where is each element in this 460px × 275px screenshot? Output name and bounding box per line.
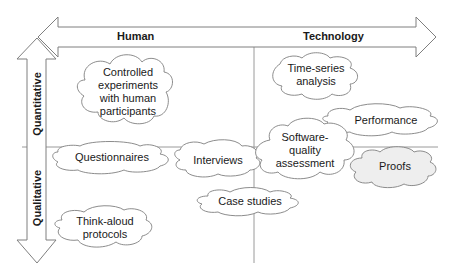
method-time-series: Time-seriesanalysis: [280, 62, 352, 88]
method-software-quality: Software-qualityassessment: [262, 131, 348, 170]
method-questionnaires: Questionnaires: [64, 151, 160, 164]
horizontal-axis-arrow: [38, 17, 436, 57]
method-performance: Performance: [340, 114, 432, 127]
method-case-studies: Case studies: [208, 195, 292, 208]
axis-label-qualitative: Qualitative: [31, 163, 43, 233]
axis-label-human: Human: [117, 30, 154, 42]
axis-label-technology: Technology: [303, 30, 364, 42]
method-think-aloud: Think-aloudprotocols: [64, 215, 146, 241]
method-proofs: Proofs: [360, 160, 430, 173]
method-controlled-experiments: Controlledexperimentswith humanparticipa…: [88, 66, 168, 118]
axis-label-quantitative: Quantitative: [31, 69, 43, 139]
method-interviews: Interviews: [186, 154, 250, 167]
